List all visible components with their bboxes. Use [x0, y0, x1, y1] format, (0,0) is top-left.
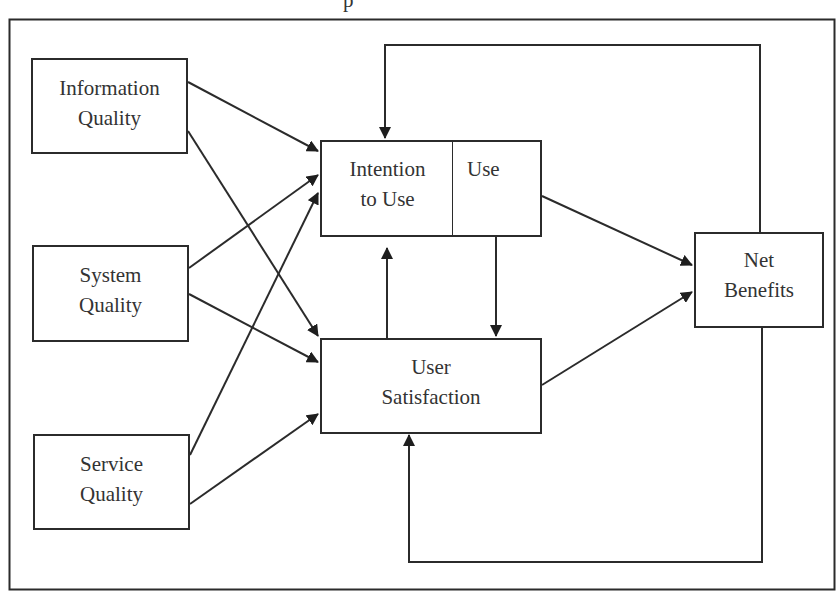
node-label-line1: Use: [467, 154, 540, 184]
node-label-line1: Service: [35, 449, 188, 479]
node-label-line2: Quality: [34, 290, 187, 320]
arrow-use-to-netbenefits: [542, 196, 692, 265]
node-label-line2: Quality: [33, 103, 186, 133]
node-label-line1: User: [322, 352, 540, 382]
node-intention-to-use: Intention to Use: [320, 140, 454, 237]
node-label-line1: Net: [696, 245, 822, 275]
node-label-line2: to Use: [322, 184, 453, 214]
information-systems-success-model-diagram: p I: [0, 0, 838, 594]
node-label-line1: Information: [33, 73, 186, 103]
arrow-sysq-to-intention: [189, 175, 318, 268]
node-use: Use: [452, 140, 542, 237]
arrow-infoq-to-intention: [188, 82, 318, 151]
arrow-servq-to-satisfaction: [190, 414, 318, 504]
node-information-quality: Information Quality: [31, 58, 188, 154]
node-user-satisfaction: User Satisfaction: [320, 338, 542, 434]
node-service-quality: Service Quality: [33, 434, 190, 530]
arrow-satisfaction-to-netbenefits: [542, 292, 692, 385]
arrow-servq-to-intention: [190, 193, 318, 455]
node-label-line2: Benefits: [696, 275, 822, 305]
node-label-line2: Quality: [35, 479, 188, 509]
node-label-line1: System: [34, 260, 187, 290]
node-label-line1: Intention: [322, 154, 453, 184]
node-net-benefits: Net Benefits: [694, 232, 824, 328]
node-label-line2: Satisfaction: [322, 382, 540, 412]
node-system-quality: System Quality: [32, 245, 189, 342]
